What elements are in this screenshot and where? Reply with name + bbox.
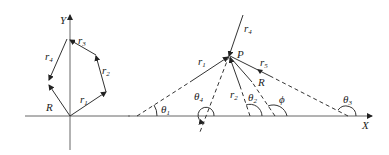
vector-polygon-diagram: Y r1 r2 r3 r4 R X r4 P r1 θ1 θ4 r2 θ2 (0, 0, 389, 155)
left-diagram: Y r1 r2 r3 r4 R (25, 14, 130, 150)
label-r1: r1 (198, 55, 206, 69)
theta3-arc (338, 106, 356, 116)
x-axis-label: X (361, 119, 370, 131)
vector-R (230, 57, 252, 82)
label-r2: r2 (230, 88, 238, 102)
label-r5: r5 (260, 56, 268, 70)
theta2-arc (246, 104, 262, 116)
right-diagram: X r4 P r1 θ1 θ4 r2 θ2 R ϕ r5 θ3 (128, 15, 372, 132)
label-r2: r2 (102, 64, 110, 78)
label-r1: r1 (80, 93, 88, 107)
label-theta2: θ2 (248, 91, 257, 105)
label-R: R (45, 101, 53, 113)
vector-r1 (190, 57, 228, 82)
label-r4: r4 (244, 22, 252, 36)
label-theta4: θ4 (194, 90, 203, 104)
label-phi: ϕ (279, 93, 285, 105)
label-r4: r4 (45, 50, 53, 64)
label-theta1: θ1 (161, 103, 170, 117)
phi-arc (268, 105, 287, 116)
label-r3: r3 (78, 34, 86, 48)
vector-r1 (70, 92, 106, 116)
label-P: P (236, 48, 244, 60)
label-theta3: θ3 (343, 93, 352, 107)
label-R: R (257, 76, 265, 88)
theta1-arc (154, 105, 157, 116)
y-axis-label: Y (60, 14, 68, 26)
